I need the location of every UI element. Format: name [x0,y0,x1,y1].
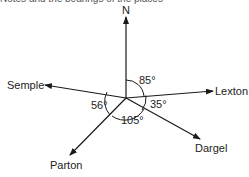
place-label-parton: Parton [50,159,82,171]
angle-label-105: 105° [121,114,144,126]
angle-label-56: 56° [91,99,108,111]
bearing-diagram: N Lexton Semple Parton Dargel 85° 35° 10… [0,0,249,177]
lexton-arrow [126,91,213,98]
angle-label-35: 35° [150,98,167,110]
place-label-semple: Semple [7,79,44,91]
place-label-dargel: Dargel [195,142,227,154]
semple-arrow [45,85,126,98]
angle-label-85: 85° [139,74,156,86]
place-label-lexton: Lexton [215,85,248,97]
north-label: N [122,4,130,16]
